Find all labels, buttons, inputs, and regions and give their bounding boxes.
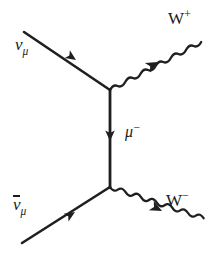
outgoing-w-plus-wave bbox=[110, 42, 201, 90]
label-incoming-antineutrino-subscript: μ bbox=[21, 205, 27, 218]
outgoing-w-minus-wave bbox=[110, 187, 204, 218]
label-incoming-neutrino: νμ bbox=[15, 36, 28, 57]
label-incoming-neutrino-subscript: μ bbox=[23, 45, 29, 58]
label-outgoing-w-minus: W− bbox=[166, 190, 189, 209]
outgoing-w-plus-stroke bbox=[110, 42, 201, 90]
label-muon-propagator-superscript: − bbox=[133, 121, 141, 133]
label-muon-propagator: μ− bbox=[125, 122, 141, 140]
label-outgoing-w-minus-base: W bbox=[166, 191, 182, 210]
label-outgoing-w-plus: W+ bbox=[168, 8, 191, 27]
label-incoming-antineutrino-base: ν bbox=[13, 196, 21, 213]
label-muon-propagator-base: μ bbox=[125, 123, 133, 140]
muon-propagator-line bbox=[105, 88, 115, 189]
incoming-antineutrino-line bbox=[22, 187, 110, 243]
label-outgoing-w-plus-base: W bbox=[168, 9, 184, 28]
label-outgoing-w-plus-superscript: + bbox=[184, 7, 191, 21]
feynman-diagram: νμ νμ μ− W+ W− bbox=[0, 0, 213, 255]
label-outgoing-w-minus-superscript: − bbox=[182, 189, 189, 203]
label-incoming-neutrino-base: ν bbox=[15, 35, 23, 54]
incoming-antineutrino-stroke bbox=[22, 187, 110, 243]
feynman-diagram-canvas bbox=[0, 0, 213, 255]
label-incoming-antineutrino: νμ bbox=[13, 196, 26, 217]
incoming-neutrino-stroke bbox=[24, 32, 110, 90]
outgoing-w-minus-stroke bbox=[110, 187, 204, 218]
incoming-neutrino-line bbox=[24, 32, 110, 90]
